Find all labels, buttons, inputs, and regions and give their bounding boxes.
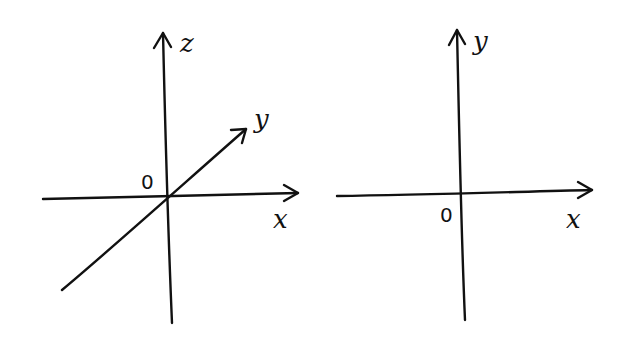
z-axis-label: z [179, 28, 194, 58]
z-axis [163, 33, 172, 323]
diagram-canvas: z y x 0 y x 0 [0, 0, 623, 355]
y-axis [457, 30, 465, 320]
y-axis [62, 129, 246, 290]
y-axis-label: y [472, 26, 488, 56]
x-axis-label: x [273, 204, 288, 234]
origin-label: 0 [440, 203, 453, 227]
y-axis-label: y [253, 104, 269, 134]
x-axis [337, 190, 592, 196]
3d-coordinate-system: z y x 0 [43, 28, 298, 323]
x-axis-label: x [566, 204, 581, 234]
2d-coordinate-system: y x 0 [337, 26, 592, 320]
origin-label: 0 [141, 170, 154, 194]
